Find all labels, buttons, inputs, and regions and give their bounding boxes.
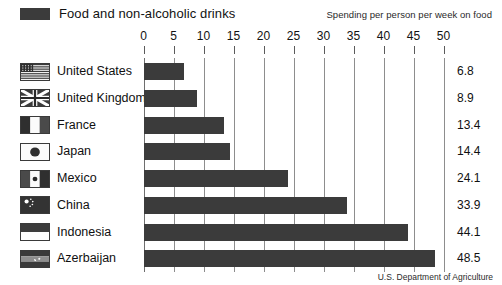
- bar-value-label: 14.4: [457, 144, 480, 158]
- chart-row[interactable]: Azerbaijan48.5: [0, 245, 502, 272]
- x-axis-tick-mark: [384, 46, 385, 54]
- flag-azerbaijan-icon: [20, 250, 50, 268]
- legend-label-food: Food and non-alcoholic drinks: [59, 7, 235, 20]
- bar-value-label: 48.5: [457, 251, 480, 265]
- x-axis-tick-label: 25: [287, 30, 300, 42]
- bar-value-label: 13.4: [457, 118, 480, 132]
- bar[interactable]: [144, 117, 224, 134]
- country-label: United States: [57, 64, 132, 78]
- chart-row[interactable]: France13.4: [0, 112, 502, 139]
- flag-united-states-icon: [20, 63, 50, 81]
- country-label: Azerbaijan: [57, 251, 116, 265]
- country-label: Indonesia: [57, 225, 111, 239]
- x-axis-tick-mark: [204, 46, 205, 54]
- x-axis-tick-label: 30: [317, 30, 330, 42]
- flag-japan-icon: [20, 143, 50, 161]
- x-axis-tick-mark: [174, 46, 175, 54]
- bar-value-label: 24.1: [457, 171, 480, 185]
- flag-france-icon: [20, 116, 50, 134]
- bar[interactable]: [144, 63, 185, 80]
- x-axis: 05101520253035404550: [0, 30, 502, 58]
- x-axis-tick-label: 35: [347, 30, 360, 42]
- bar[interactable]: [144, 197, 347, 214]
- x-axis-tick-label: 0: [140, 30, 147, 42]
- x-axis-tick-label: 15: [227, 30, 240, 42]
- source-note: U.S. Department of Agriculture: [378, 272, 493, 282]
- country-label: United Kingdom: [57, 91, 146, 105]
- flag-mexico-icon: [20, 170, 50, 188]
- country-label: China: [57, 198, 90, 212]
- x-axis-tick-mark: [414, 46, 415, 54]
- x-axis-tick-label: 50: [437, 30, 450, 42]
- flag-indonesia-icon: [20, 223, 50, 241]
- chart-row[interactable]: Japan14.4: [0, 138, 502, 165]
- x-axis-tick-mark: [444, 46, 445, 54]
- chart-row[interactable]: Mexico24.1: [0, 165, 502, 192]
- x-axis-tick-label: 45: [407, 30, 420, 42]
- country-label: Mexico: [57, 171, 97, 185]
- x-axis-tick-mark: [294, 46, 295, 54]
- chart-container: Food and non-alcoholic drinks Spending p…: [0, 0, 502, 285]
- bar[interactable]: [144, 224, 409, 241]
- plot-area: United States6.8 United Kingdom8.9 Franc…: [0, 58, 502, 272]
- bar[interactable]: [144, 250, 435, 267]
- chart-row[interactable]: China33.9: [0, 192, 502, 219]
- x-axis-tick-mark: [144, 46, 145, 54]
- chart-subtitle: Spending per person per week on food: [326, 10, 492, 20]
- bar-value-label: 33.9: [457, 198, 480, 212]
- flag-united-kingdom-icon: [20, 89, 50, 107]
- chart-row[interactable]: United States6.8: [0, 58, 502, 85]
- x-axis-tick-label: 40: [377, 30, 390, 42]
- chart-row[interactable]: Indonesia44.1: [0, 219, 502, 246]
- bar[interactable]: [144, 143, 230, 160]
- x-axis-tick-mark: [264, 46, 265, 54]
- flag-china-icon: [20, 196, 50, 214]
- legend-swatch-food: [20, 8, 50, 20]
- country-label: France: [57, 118, 96, 132]
- bar[interactable]: [144, 170, 289, 187]
- chart-legend: Food and non-alcoholic drinks: [20, 7, 235, 20]
- x-axis-tick-label: 20: [257, 30, 270, 42]
- bar-value-label: 6.8: [457, 64, 474, 78]
- x-axis-tick-mark: [234, 46, 235, 54]
- chart-row[interactable]: United Kingdom8.9: [0, 85, 502, 112]
- x-axis-tick-mark: [354, 46, 355, 54]
- bar-value-label: 8.9: [457, 91, 474, 105]
- country-label: Japan: [57, 144, 91, 158]
- x-axis-tick-label: 10: [197, 30, 210, 42]
- x-axis-tick-label: 5: [170, 30, 177, 42]
- x-axis-tick-mark: [324, 46, 325, 54]
- bar-value-label: 44.1: [457, 225, 480, 239]
- bar[interactable]: [144, 90, 197, 107]
